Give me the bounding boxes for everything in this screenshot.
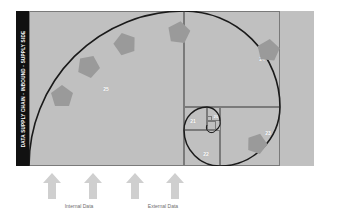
input-arrow-1: [43, 173, 61, 199]
cell-23-label: 23: [265, 130, 271, 136]
input-arrow-3: [126, 173, 144, 199]
cell-22: [184, 130, 220, 166]
vertical-title-bar: DATA SUPPLY CHAIN - INBOUND - SUPPLY SID…: [16, 11, 29, 166]
cell-21-label: 21: [190, 118, 196, 124]
input-arrow-2: [84, 173, 102, 199]
input-arrow-4: [166, 173, 184, 199]
internal-data-caption: Internal Data: [65, 203, 94, 209]
cell-22-label: 22: [203, 151, 209, 157]
external-data-caption: External Data: [148, 203, 178, 209]
cell-25-label: 25: [103, 86, 109, 92]
vertical-title-bar-label: DATA SUPPLY CHAIN - INBOUND - SUPPLY SID…: [20, 30, 25, 147]
cell-micro-1: [207, 121, 216, 130]
cell-micro-2: [207, 116, 212, 121]
diagram-canvas: 25 24 23 22 21 20: [0, 0, 341, 223]
fibonacci-spiral-diagram: 25 24 23 22 21 20: [16, 11, 314, 166]
cell-20-label: 20: [214, 114, 219, 119]
